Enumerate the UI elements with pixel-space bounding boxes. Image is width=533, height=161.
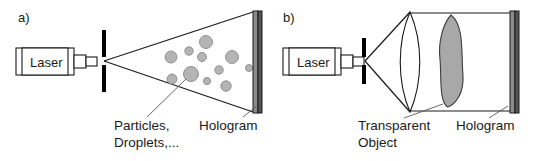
panel-b-label: b): [283, 10, 295, 25]
aperture-upper-blade: [362, 38, 366, 57]
hologram-callout-label: Hologram: [199, 118, 258, 133]
aperture-lower-blade: [102, 65, 106, 92]
panel-b: b) Laser: [283, 10, 519, 150]
laser-collimator: [86, 57, 97, 66]
particle-dot: [221, 81, 231, 91]
particle-dot: [226, 51, 239, 64]
particle-dot: [215, 66, 223, 74]
hologram-plate-edge: [515, 11, 519, 113]
particles-callout-label: Particles, Droplets,...: [114, 118, 179, 150]
transparent-object-callout-line-2: Object: [358, 135, 397, 150]
particle-dot: [185, 47, 193, 55]
hologram-callout-line-1: Hologram: [199, 118, 258, 133]
particle-dot: [198, 53, 207, 62]
particle-dot: [246, 65, 253, 72]
transparent-object-callout-line-1: Transparent: [358, 118, 431, 133]
transparent-object-callout-label: Transparent Object: [358, 118, 434, 150]
panel-a-laser-source: Laser: [16, 48, 97, 75]
hologram-plate-edge: [258, 11, 262, 113]
aperture-lower-blade: [362, 65, 366, 84]
panel-a-particle-cloud: [165, 36, 253, 92]
hologram-callout-line-1: Hologram: [456, 118, 515, 133]
laser-collimator: [353, 57, 364, 66]
transparent-object-shape: [440, 15, 464, 107]
particles-callout-line-2: Droplets,...: [114, 135, 179, 150]
collimating-lens-icon: [400, 12, 420, 112]
particle-dot: [165, 51, 177, 63]
laser-neck: [74, 55, 86, 68]
particle-dot: [203, 77, 210, 84]
holography-figure: a) Laser: [0, 0, 533, 161]
hologram-plate-face: [510, 11, 515, 113]
hologram-plate-face: [253, 11, 258, 113]
panel-a-hologram-plate: [253, 11, 262, 113]
aperture-upper-blade: [102, 30, 106, 57]
particles-callout-line-1: Particles,: [114, 118, 170, 133]
particle-dot: [167, 74, 177, 84]
laser-label: Laser: [30, 55, 63, 70]
particles-leader-line: [147, 79, 186, 117]
laser-neck: [341, 55, 353, 68]
hologram-callout-label: Hologram: [456, 118, 515, 133]
panel-a: a) Laser: [16, 10, 262, 150]
particle-dot: [200, 36, 213, 49]
panel-a-label: a): [18, 10, 30, 25]
laser-label: Laser: [297, 55, 330, 70]
hologram-leader-line: [489, 106, 508, 118]
panel-b-laser-source: Laser: [283, 48, 364, 75]
panel-b-hologram-plate: [510, 11, 519, 113]
figure-canvas: a) Laser: [0, 0, 533, 161]
